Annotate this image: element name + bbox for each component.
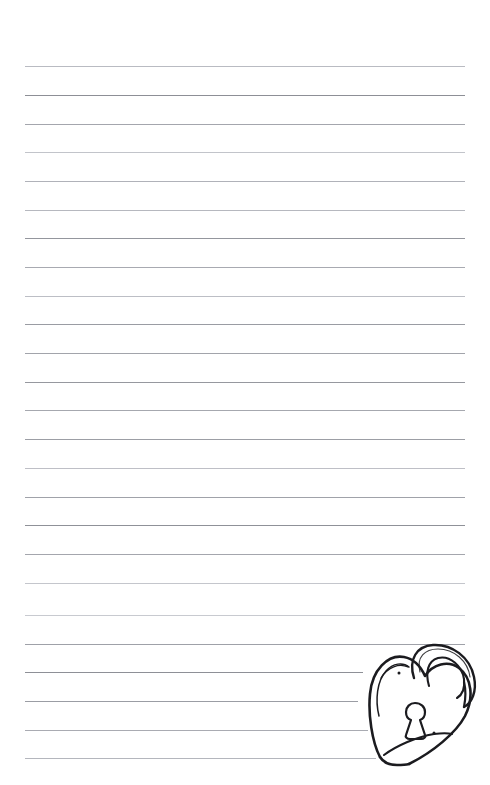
rule-line xyxy=(25,181,465,182)
rule-line xyxy=(25,152,465,153)
rule-line xyxy=(25,324,465,325)
rule-line xyxy=(25,672,363,673)
rule-line xyxy=(25,615,465,616)
rule-line xyxy=(25,468,465,469)
rule-line xyxy=(25,644,465,645)
rule-line xyxy=(25,497,465,498)
rule-line xyxy=(25,730,368,731)
notebook-page xyxy=(0,0,490,785)
rule-line xyxy=(25,267,465,268)
rule-line xyxy=(25,382,465,383)
rule-line xyxy=(25,66,465,67)
rule-line xyxy=(25,210,465,211)
rule-line xyxy=(25,439,465,440)
rule-line xyxy=(25,124,465,125)
rule-line xyxy=(25,525,465,526)
rule-line xyxy=(25,95,465,96)
rule-line xyxy=(25,238,465,239)
rule-line xyxy=(25,583,465,584)
rule-line xyxy=(25,554,465,555)
ruled-lines-layer xyxy=(0,0,490,785)
rule-line xyxy=(25,758,376,759)
rule-line xyxy=(25,410,465,411)
rule-line xyxy=(25,296,465,297)
rule-line xyxy=(25,701,358,702)
rule-line xyxy=(25,353,465,354)
